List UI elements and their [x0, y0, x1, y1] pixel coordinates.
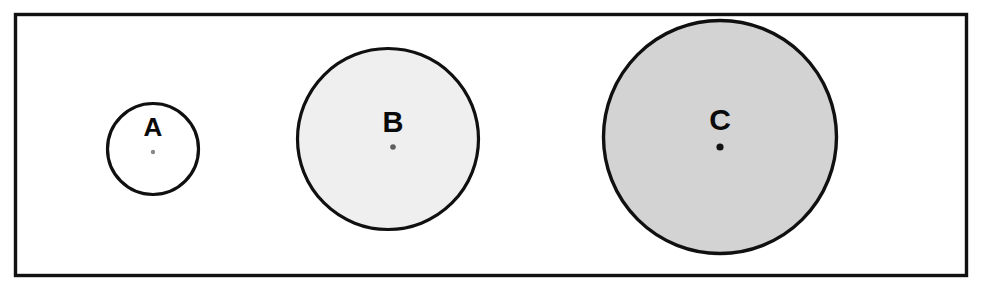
circle-group-b[interactable]: B [298, 49, 479, 230]
circles-diagram: A B C [0, 0, 997, 298]
circle-label-c: C [709, 103, 731, 136]
circle-label-b: B [383, 106, 404, 138]
circle-group-c[interactable]: C [604, 21, 837, 254]
center-dot-a [151, 150, 155, 154]
set-circle-c[interactable] [604, 21, 837, 254]
circle-group-a[interactable]: A [108, 104, 199, 195]
center-dot-b [390, 144, 396, 150]
circle-label-a: A [144, 112, 163, 142]
diagram-canvas: A B C [0, 0, 997, 298]
set-circle-b[interactable] [298, 49, 479, 230]
center-dot-c [716, 143, 723, 150]
